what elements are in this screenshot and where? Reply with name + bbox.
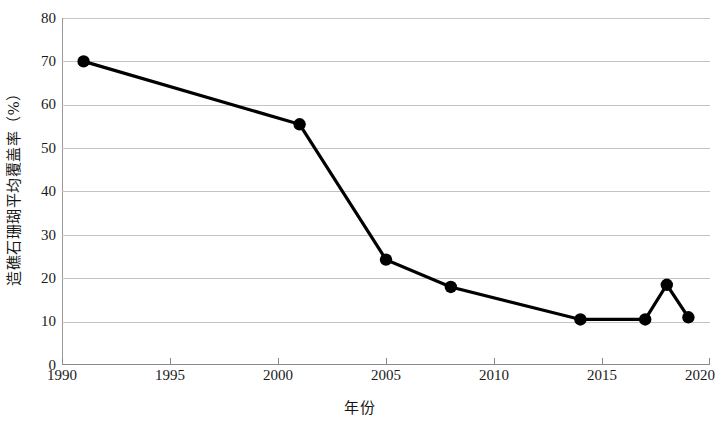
y-tick-label-80: 80	[41, 11, 56, 26]
data-point-2018	[661, 279, 673, 291]
series-plot	[62, 18, 710, 365]
y-tick-label-60: 60	[41, 97, 56, 112]
data-point-2001	[293, 118, 305, 130]
x-tick-label-2000: 2000	[263, 368, 293, 383]
x-tick-label-1990: 1990	[47, 368, 77, 383]
data-point-2014	[574, 313, 586, 325]
data-point-2017	[639, 313, 651, 325]
data-point-1991	[77, 55, 89, 67]
y-tick-label-20: 20	[41, 271, 56, 286]
y-tick-label-30: 30	[41, 228, 56, 243]
plot-area	[62, 18, 710, 365]
coral-coverage-line-chart: 造礁石珊瑚平均覆盖率（%） 80 70 60 50 40 30 20 10 0	[0, 0, 720, 422]
data-point-2008	[445, 281, 457, 293]
x-axis-tick-labels: 1990 1995 2000 2005 2010 2015 2020	[0, 368, 720, 392]
x-axis-title: 年份	[0, 396, 720, 417]
x-tick-label-2020: 2020	[685, 368, 715, 383]
x-tick-label-1995: 1995	[155, 368, 185, 383]
y-tick-label-50: 50	[41, 141, 56, 156]
y-tick-label-70: 70	[41, 54, 56, 69]
x-tick-label-2015: 2015	[587, 368, 617, 383]
series-line-coral	[84, 61, 689, 319]
data-point-2019	[682, 311, 694, 323]
y-axis-title: 造礁石珊瑚平均覆盖率（%）	[0, 0, 24, 370]
y-tick-label-40: 40	[41, 184, 56, 199]
x-tick-label-2010: 2010	[479, 368, 509, 383]
y-tick-label-10: 10	[41, 314, 56, 329]
y-axis-title-text: 造礁石珊瑚平均覆盖率（%）	[2, 85, 23, 286]
x-tick-label-2005: 2005	[371, 368, 401, 383]
series-marker-group	[77, 55, 694, 325]
y-axis-tick-labels: 80 70 60 50 40 30 20 10 0	[22, 0, 60, 422]
data-point-2005	[380, 253, 392, 265]
